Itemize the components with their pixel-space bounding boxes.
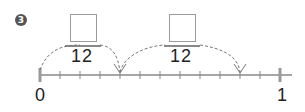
label-one: 1: [277, 86, 287, 104]
jump-arc-2: [120, 45, 240, 72]
label-zero: 0: [35, 86, 45, 104]
jump-arc-1: [40, 45, 120, 72]
number-line-diagram: [0, 0, 305, 112]
